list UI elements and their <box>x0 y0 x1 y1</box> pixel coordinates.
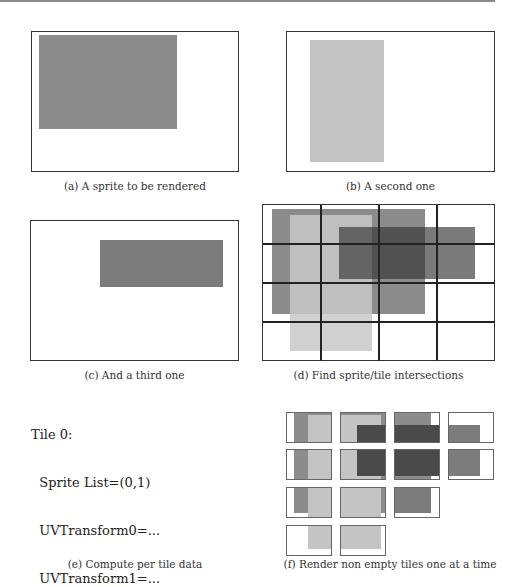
grid-line <box>263 243 495 245</box>
caption-e: (e) Compute per tile data <box>31 558 239 570</box>
sprite-2-part <box>395 450 440 476</box>
sprite-0-part <box>395 488 431 513</box>
caption-f: (f) Render non empty tiles one at a time <box>270 558 510 570</box>
panel-a-sprite-0 <box>31 31 239 172</box>
sprite-2-part <box>357 425 386 443</box>
sprite-1-part <box>341 526 381 549</box>
caption-c: (c) And a third one <box>30 369 239 381</box>
tile <box>286 412 332 443</box>
sprite-2 <box>100 240 223 287</box>
sprite-1-part <box>308 526 332 549</box>
tile <box>286 487 332 518</box>
sprite-2-part <box>449 450 480 476</box>
code-line: UVTransform0=... <box>31 523 163 539</box>
sprite-1 <box>310 40 384 162</box>
code-line: UVTransform1=... <box>31 571 163 587</box>
panel-d-intersections <box>262 204 495 361</box>
tile <box>448 449 494 480</box>
tile <box>394 449 440 480</box>
tile <box>340 449 386 480</box>
sprite-2-part <box>395 425 440 443</box>
caption-b: (b) A second one <box>286 180 495 192</box>
page-top-rule <box>0 0 495 2</box>
sprite-2-part <box>357 450 386 476</box>
grid-line <box>263 321 495 323</box>
tile <box>394 412 440 443</box>
tile <box>394 487 440 518</box>
sprite-1-part <box>308 488 332 518</box>
panel-c-sprite-2 <box>30 220 239 361</box>
sprite-1-part <box>308 450 332 480</box>
sprite-1-part <box>308 415 332 443</box>
grid-line <box>263 282 495 284</box>
tile <box>286 449 332 480</box>
tile <box>340 412 386 443</box>
code-line: Tile 0: <box>31 427 163 443</box>
tile <box>448 412 494 443</box>
tile <box>340 487 386 518</box>
tile <box>340 525 386 556</box>
code-line: Sprite List=(0,1) <box>31 475 163 491</box>
sprite-2-part <box>449 425 480 443</box>
caption-d: (d) Find sprite/tile intersections <box>262 369 495 381</box>
tile <box>286 525 332 556</box>
sprite-0 <box>39 35 177 129</box>
sprite-1-part <box>341 488 381 518</box>
sprite-2-overlay <box>339 227 475 279</box>
caption-a: (a) A sprite to be rendered <box>31 180 239 192</box>
panel-b-sprite-1 <box>286 31 495 172</box>
